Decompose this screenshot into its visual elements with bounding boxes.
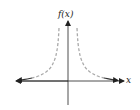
- curve-left-solid: [17, 78, 32, 81]
- curve-left-dashed: [32, 28, 59, 78]
- x-axis-label: x: [126, 76, 131, 85]
- curve-right-solid: [104, 78, 118, 81]
- curve-right-dashed: [77, 28, 104, 78]
- y-axis-label: f(x): [58, 10, 73, 19]
